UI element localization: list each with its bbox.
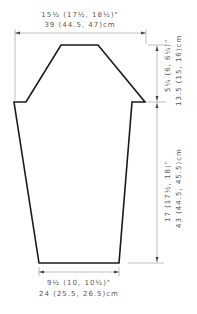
shoulder-depth-cm-label: 13.5 (15, 16)cm	[175, 35, 184, 106]
body-length-inches-label: 17 (17½, 18)"	[164, 160, 173, 222]
top-width-inches-label: 15½ (17½, 18½)"	[0, 11, 160, 20]
body-length-cm-label: 43 (44.5, 45.5)cm	[175, 148, 184, 228]
garment-outline	[14, 45, 145, 263]
bottom-width-cm-label: 24 (25.5, 26.5)cm	[0, 290, 158, 299]
right-dimension-lines	[128, 45, 166, 263]
bottom-width-dimension	[39, 267, 119, 276]
shoulder-depth-inches-label: 5¼ (6, 6¼)"	[164, 39, 173, 92]
top-width-cm-label: 39 (44.5, 47)cm	[0, 21, 160, 30]
bottom-width-inches-label: 9½ (10, 10½)"	[0, 279, 158, 288]
